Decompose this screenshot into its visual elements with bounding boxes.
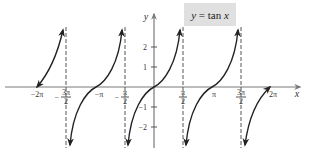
tan-branch-5 xyxy=(245,87,270,145)
x-tick-label-pi: π xyxy=(212,90,216,99)
x-tick-sign: − xyxy=(54,93,59,102)
x-tick-sign: − xyxy=(114,93,119,102)
y-tick-label: −2 xyxy=(138,123,147,132)
x-tick-num: 3π xyxy=(62,88,70,97)
y-axis-label: y xyxy=(143,11,149,22)
y-tick-label: −1 xyxy=(138,103,147,112)
x-tick-num: π xyxy=(123,88,127,97)
equation-label: y = tan x xyxy=(184,3,236,26)
x-tick-label-neg-pi: −π xyxy=(95,90,104,99)
x-tick-den: 2 xyxy=(123,97,127,106)
tan-branch-1 xyxy=(37,30,63,87)
y-tick-label: 2 xyxy=(143,43,147,52)
x-axis-label: x xyxy=(294,88,300,99)
x-tick-num: 3π xyxy=(237,88,245,97)
x-tick-label-2pi: 2π xyxy=(269,90,277,99)
tan-graph: 2 1 −1 −2 −2π − 3π 2 −π − π 2 π 2 π 3π 2… xyxy=(0,0,311,151)
x-tick-label-neg-2pi: −2π xyxy=(31,90,44,99)
x-tick-num: π xyxy=(181,88,185,97)
y-tick-label: 1 xyxy=(143,63,147,72)
equation-func: = tan xyxy=(196,9,224,21)
x-tick-den: 2 xyxy=(239,97,243,106)
x-tick-den: 2 xyxy=(181,97,185,106)
equation-arg: x xyxy=(224,9,229,21)
x-tick-den: 2 xyxy=(64,97,68,106)
